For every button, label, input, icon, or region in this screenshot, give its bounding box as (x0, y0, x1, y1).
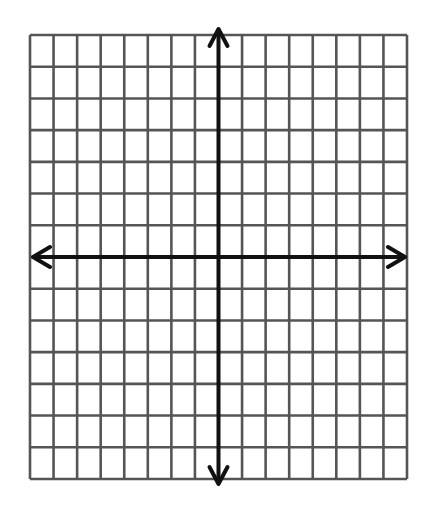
coordinate-plane (0, 0, 422, 513)
